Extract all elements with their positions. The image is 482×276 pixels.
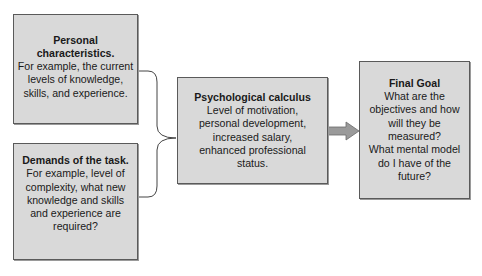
psychological-calculus-text: Level of motivation, personal developmen… — [199, 104, 306, 170]
task-demands-box: Demands of the task. For example, level … — [13, 143, 138, 260]
personal-characteristics-text: For example, the current levels of knowl… — [18, 60, 133, 100]
personal-characteristics-box: Personal characteristics. For example, t… — [13, 14, 138, 124]
personal-characteristics-title: Personal characteristics. — [17, 34, 134, 61]
task-demands-text: For example, level of complexity, what n… — [26, 167, 126, 233]
merge-brace-icon — [137, 71, 176, 197]
final-goal-title: Final Goal — [389, 77, 440, 90]
final-goal-text: What are the objectives and how will the… — [369, 90, 460, 183]
task-demands-title: Demands of the task. — [22, 154, 129, 167]
psychological-calculus-box: Psychological calculus Level of motivati… — [177, 77, 328, 184]
right-arrow-icon — [328, 122, 359, 140]
psychological-calculus-title: Psychological calculus — [194, 91, 311, 104]
final-goal-box: Final Goal What are the objectives and h… — [359, 61, 470, 199]
